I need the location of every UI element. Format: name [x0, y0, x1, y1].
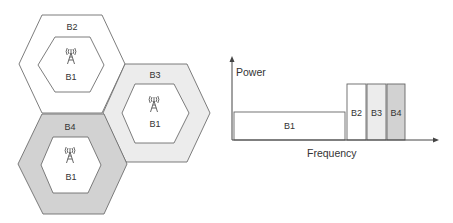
x-axis-arrow-icon	[433, 138, 439, 143]
y-axis-arrow-icon	[230, 56, 235, 62]
inner-band-label: B1	[65, 172, 76, 182]
outer-band-label: B3	[149, 70, 160, 80]
cell-bottom: B4B1	[18, 114, 127, 214]
bar-label: B4	[390, 108, 401, 118]
inner-band-label: B1	[65, 72, 76, 82]
frequency-power-chart: B1B2B3B4 Power Frequency	[230, 56, 440, 159]
bar-b2: B2	[347, 84, 366, 140]
bar-label: B3	[371, 108, 382, 118]
x-axis-label: Frequency	[307, 147, 357, 159]
bar-label: B1	[284, 121, 295, 131]
cell-top: B2B1	[19, 15, 125, 113]
cell-inner-band	[41, 137, 101, 193]
figure-canvas: B2B1B3B1B4B1 B1B2B3B4 Power Frequency	[0, 0, 453, 223]
outer-band-label: B2	[66, 22, 77, 32]
bar-b4: B4	[387, 84, 405, 140]
outer-band-label: B4	[64, 122, 75, 132]
bar-b3: B3	[367, 84, 386, 140]
y-axis-label: Power	[236, 66, 266, 78]
inner-band-label: B1	[149, 119, 160, 129]
hexagonal-cell-layout: B2B1B3B1B4B1	[18, 15, 210, 214]
bar-label: B2	[351, 108, 362, 118]
chart-bars: B1B2B3B4	[234, 84, 405, 140]
bar-b1: B1	[234, 112, 345, 140]
